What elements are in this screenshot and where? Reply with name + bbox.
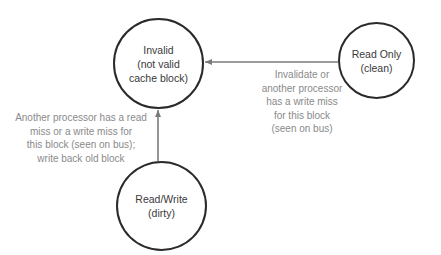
state-read-write-line-2: (dirty): [148, 206, 175, 220]
label-line: miss or a write miss for: [6, 125, 156, 139]
state-invalid: Invalid (not valid cache block): [113, 18, 204, 109]
state-read-write-line-1: Read/Write: [135, 192, 187, 206]
label-line: another processor: [252, 82, 352, 96]
state-invalid-line-2: (not valid: [137, 57, 180, 71]
label-line: Invalidate or: [252, 68, 352, 82]
state-invalid-line-1: Invalid: [143, 43, 173, 57]
state-read-only-line-1: Read Only: [352, 47, 402, 61]
label-line: has a write miss: [252, 95, 352, 109]
state-read-write: Read/Write (dirty): [116, 161, 207, 251]
label-line: Another processor has a read: [6, 111, 156, 125]
label-line: write back old block: [6, 152, 156, 166]
label-line: for this block: [252, 109, 352, 123]
transition-label-readonly-to-invalid: Invalidate or another processor has a wr…: [252, 68, 352, 136]
state-diagram: Invalid (not valid cache block) Read Onl…: [0, 0, 441, 255]
transition-label-readwrite-to-invalid: Another processor has a read miss or a w…: [6, 111, 156, 165]
label-line: this block (seen on bus);: [6, 138, 156, 152]
state-invalid-line-3: cache block): [129, 71, 188, 85]
state-read-only-line-2: (clean): [360, 61, 392, 75]
label-line: (seen on bus): [252, 122, 352, 136]
